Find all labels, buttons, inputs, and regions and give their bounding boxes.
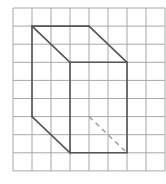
prism-grid-diagram: [0, 0, 166, 184]
grid-lines: [13, 8, 165, 171]
prism-solid-edges: [32, 26, 127, 153]
